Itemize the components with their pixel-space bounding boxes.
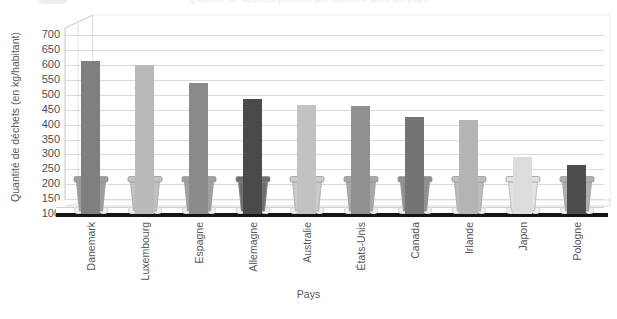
y-tick-label: 700: [26, 28, 60, 40]
bar[interactable]: [459, 120, 478, 214]
y-tick-label: 350: [26, 133, 60, 145]
x-tick-label: Australie: [280, 218, 334, 288]
x-tick-label: Canada: [388, 218, 442, 288]
x-tick-label: Allemagne: [226, 218, 280, 288]
bar-slot: [64, 28, 118, 214]
chart-figure: Quantité de déchets produits par habitan…: [0, 0, 617, 319]
bar[interactable]: [189, 83, 208, 214]
bar[interactable]: [297, 105, 316, 214]
y-tick-label: 150: [26, 192, 60, 204]
y-tick-label: 500: [26, 88, 60, 100]
bar-slot: [442, 28, 496, 214]
bar[interactable]: [405, 117, 424, 214]
x-tick-label: Japon: [496, 218, 550, 288]
bar-slot: [172, 28, 226, 214]
y-tick-label: 250: [26, 162, 60, 174]
y-tick-label: 100: [26, 207, 60, 219]
y-tick-label: 300: [26, 147, 60, 159]
bar[interactable]: [351, 106, 370, 214]
y-axis-title: Quantité de déchets (en kg/habitant): [9, 21, 25, 213]
x-tick-label: Irlande: [442, 218, 496, 288]
bar-series: [64, 28, 604, 214]
x-tick-label: Pologne: [550, 218, 604, 288]
y-tick-label: 650: [26, 43, 60, 55]
bar-slot: [226, 28, 280, 214]
y-tick-label: 200: [26, 177, 60, 189]
bar-slot: [334, 28, 388, 214]
bar[interactable]: [135, 65, 154, 214]
x-axis-title: Pays: [0, 288, 617, 300]
bar-slot: [496, 28, 550, 214]
x-tick-label: Espagne: [172, 218, 226, 288]
bar-slot: [118, 28, 172, 214]
bar[interactable]: [567, 165, 586, 214]
bar-slot: [280, 28, 334, 214]
bar[interactable]: [81, 61, 100, 214]
y-axis-ticks: 700650600550500450400350300250200150100: [24, 28, 60, 214]
bar-slot: [550, 28, 604, 214]
bar[interactable]: [513, 157, 532, 214]
x-tick-label: Luxembourg: [118, 218, 172, 288]
y-tick-label: 600: [26, 58, 60, 70]
x-tick-label: Danemark: [64, 218, 118, 288]
x-tick-label: États-Unis: [334, 218, 388, 288]
y-tick-label: 450: [26, 103, 60, 115]
y-tick-label: 400: [26, 118, 60, 130]
y-tick-label: 550: [26, 73, 60, 85]
bar[interactable]: [243, 99, 262, 214]
bar-slot: [388, 28, 442, 214]
x-axis-ticks: DanemarkLuxembourgEspagneAllemagneAustra…: [64, 218, 604, 288]
chart-title-clipped: Quantité de déchets produits par habitan…: [0, 0, 617, 4]
